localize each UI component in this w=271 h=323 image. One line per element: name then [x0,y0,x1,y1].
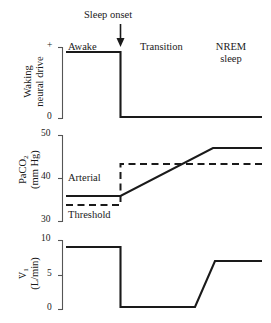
phase-label-transition: Transition [140,41,183,52]
tick-ventilation-10: 10 [41,234,51,244]
panel-paco2-axis [58,135,63,222]
series-label-threshold: Threshold [68,209,111,220]
tick-ventilation-5: 5 [47,269,52,279]
sleep-onset-arrow-icon [117,24,125,47]
sleep-onset-respiratory-figure: Sleep onset [0,0,271,323]
tick-paco2-50: 50 [41,129,51,139]
axis-title-paco2-text: PaCO [17,159,28,184]
overdot-icon: · [16,274,24,277]
tick-waking-plus: + [47,41,52,51]
phase-label-nrem-line2: sleep [208,53,254,64]
tick-ventilation-0: 0 [47,303,52,313]
axis-title-paco2-line2: (mm Hg) [29,120,40,220]
axis-title-ventilation-line1: ·V1 [17,224,28,323]
panel-ventilation-axis [58,240,63,310]
tick-paco2-40: 40 [41,172,51,182]
axis-title-waking-line1: Waking [22,32,33,132]
series-ventilation [66,247,262,307]
tick-waking-zero: 0 [47,112,52,122]
series-paco2-threshold [66,164,262,205]
panel-waking-neural-drive-axis [58,47,63,119]
v-dot-symbol: ·V [17,272,28,280]
axis-title-ventilation-line2: (L/min) [29,224,40,323]
axis-title-waking-line2: neural drive [34,32,45,132]
series-label-arterial: Arterial [68,172,101,183]
phase-label-nrem-line1: NREM [208,41,254,52]
tick-paco2-30: 30 [41,215,51,225]
axis-title-paco2-line1: PaCO2 [17,120,28,220]
phase-label-awake: Awake [68,41,97,52]
